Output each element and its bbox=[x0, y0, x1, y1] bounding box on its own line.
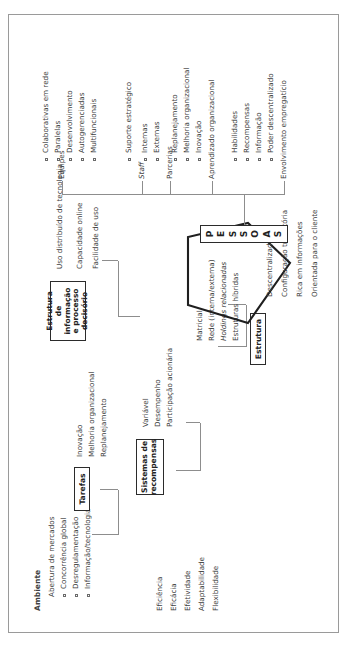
people-branch-3-item-1: Melhoria organizacional bbox=[183, 68, 191, 153]
bullet-square-icon bbox=[234, 158, 237, 161]
people-branch-1-item-0: Suporte estratégico bbox=[125, 82, 133, 153]
information-item-2: Facilidade de uso bbox=[92, 207, 100, 269]
diagram-page: Ambiente Abertura de mercados Concorrênc… bbox=[0, 0, 349, 647]
connector-line bbox=[212, 181, 213, 195]
information-box: Estrutura de informação e processo decis… bbox=[50, 281, 86, 341]
connector-line bbox=[142, 181, 143, 195]
people-branch-3-item-0: Inovação bbox=[195, 121, 203, 153]
people-branch-3-item-2: Replanejamento bbox=[171, 94, 179, 153]
bullet-square-icon bbox=[258, 158, 261, 161]
pentagon-attribute-0: Descentralizada bbox=[266, 239, 274, 297]
connector-line bbox=[118, 316, 140, 317]
connector-bus-line bbox=[62, 194, 284, 195]
people-branch-1-name: Staff bbox=[138, 162, 146, 179]
bullet-square-icon bbox=[128, 158, 131, 161]
people-box: P E S S O A S bbox=[200, 225, 288, 243]
people-letter-6: S bbox=[273, 231, 283, 237]
pentagon-attribute-2: Rica em informações bbox=[296, 221, 304, 297]
connector-line bbox=[244, 195, 245, 225]
connector-line bbox=[102, 260, 118, 261]
bullet-square-icon bbox=[186, 158, 189, 161]
bullet-square-icon bbox=[156, 158, 159, 161]
connector-line bbox=[170, 181, 171, 195]
people-branch-0-item-1: Paralelas bbox=[54, 121, 62, 153]
people-branch-0-item-4: Multifuncionais bbox=[90, 99, 98, 153]
bullet-square-icon bbox=[198, 158, 201, 161]
bullet-square-icon bbox=[93, 158, 96, 161]
information-item-0: Uso distribuído de tecnologia bbox=[56, 164, 64, 269]
pentagon-attribute-3: Orientada para o cliente bbox=[311, 209, 319, 297]
pentagon-attribute-1: Configuração transitória bbox=[281, 210, 289, 297]
people-branch-0-name: Equipes bbox=[58, 151, 66, 179]
bullet-square-icon bbox=[174, 158, 177, 161]
people-branch-2-item-0: Externas bbox=[153, 121, 161, 153]
connector-line bbox=[284, 181, 285, 195]
information-item-1: Capacidade online bbox=[76, 203, 84, 270]
bullet-square-icon bbox=[69, 158, 72, 161]
diagram-canvas: Ambiente Abertura de mercados Concorrênc… bbox=[0, 0, 349, 647]
bullet-square-icon bbox=[57, 158, 60, 161]
people-branch-4-item-3: Habilidades bbox=[231, 111, 239, 153]
people-letter-4: O bbox=[250, 230, 260, 238]
people-letter-3: S bbox=[239, 231, 249, 237]
rotated-diagram-wrapper: Ambiente Abertura de mercados Concorrênc… bbox=[0, 0, 349, 647]
bullet-square-icon bbox=[144, 158, 147, 161]
people-branch-0-item-2: Desenvolvimento bbox=[66, 90, 74, 153]
people-branch-0-item-3: Autogerenciadas bbox=[78, 92, 86, 153]
bullet-square-icon bbox=[45, 158, 48, 161]
connector-line bbox=[62, 181, 63, 195]
people-letter-0: P bbox=[205, 231, 215, 238]
people-branch-4-item-0: Poder descentralizado bbox=[267, 73, 275, 153]
people-branch-0-item-0: Colaborativas em rede bbox=[42, 71, 50, 153]
people-letter-1: E bbox=[216, 231, 226, 237]
people-branch-3-name: Aprendizado organizacional bbox=[208, 80, 216, 179]
bullet-square-icon bbox=[81, 158, 84, 161]
people-branch-4-name: Envolvimento empregatício bbox=[280, 80, 288, 179]
people-branch-2-item-1: Internas bbox=[141, 124, 149, 153]
people-branch-4-item-2: Recompensas bbox=[243, 103, 251, 153]
people-letter-2: S bbox=[228, 231, 238, 237]
bullet-square-icon bbox=[270, 158, 273, 161]
connector-line bbox=[118, 261, 119, 317]
people-branch-4-item-1: Informação bbox=[255, 112, 263, 153]
people-letter-5: A bbox=[262, 231, 272, 238]
bullet-square-icon bbox=[246, 158, 249, 161]
